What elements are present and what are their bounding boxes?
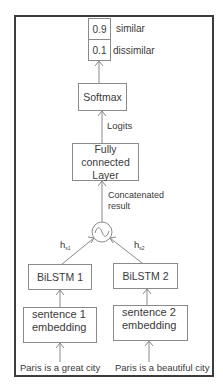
- embedding1-node: sentence 1 embedding: [23, 307, 97, 343]
- softmax-label: Softmax: [83, 91, 122, 104]
- bilstm2-label: BiLSTM 2: [122, 270, 168, 283]
- input-sentence2: Paris is a beautiful city: [115, 362, 210, 373]
- embedding1-line1: sentence 1: [32, 308, 86, 321]
- similar-score: 0.9: [93, 24, 107, 35]
- softmax-node: Softmax: [78, 83, 127, 111]
- bilstm2-node: BiLSTM 2: [113, 263, 178, 289]
- embedding2-line2: embedding: [122, 319, 176, 332]
- embedding2-line1: sentence 2: [122, 306, 176, 319]
- hs1-label: hs1: [60, 239, 71, 254]
- concatenated-label-line2: result: [108, 201, 130, 212]
- fc-label-line2: Layer: [92, 169, 118, 182]
- output-dissimilar-value: 0.1: [88, 39, 111, 61]
- fully-connected-node: Fully connected Layer: [72, 143, 139, 181]
- logits-label: Logits: [107, 120, 132, 131]
- concatenated-label-line1: Concatenated: [108, 190, 164, 201]
- input-sentence1: Paris is a great city: [20, 362, 100, 373]
- output-similar-value: 0.9: [88, 18, 111, 40]
- hs2-label: hs2: [134, 239, 145, 254]
- fc-label-line1: Fully connected: [73, 143, 138, 169]
- dissimilar-label: dissimilar: [113, 45, 155, 56]
- similar-label: similar: [116, 23, 145, 34]
- embedding1-line2: embedding: [32, 321, 86, 334]
- dissimilar-score: 0.1: [93, 45, 107, 56]
- embedding2-node: sentence 2 embedding: [113, 305, 188, 341]
- bilstm1-label: BiLSTM 1: [37, 271, 83, 284]
- bilstm1-node: BiLSTM 1: [28, 264, 92, 290]
